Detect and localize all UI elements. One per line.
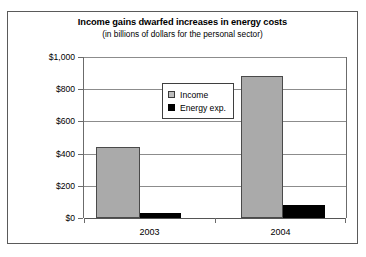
- y-axis-label-200: $200: [56, 181, 75, 191]
- page-title: Income gains dwarfed increases in energy…: [8, 16, 357, 28]
- chart-legend: Income Energy exp.: [162, 83, 234, 119]
- chart-figure: Income gains dwarfed increases in energy…: [7, 11, 358, 244]
- legend-swatch-energy: [168, 104, 175, 111]
- x-axis-label-2004: 2004: [270, 227, 290, 237]
- y-tick-200: [78, 186, 83, 187]
- gridline-600: [84, 121, 346, 122]
- y-axis-label-600: $600: [56, 116, 75, 126]
- x-tick-category-divider: [215, 218, 216, 223]
- bar-energy-2004: [283, 205, 325, 218]
- legend-label-energy: Energy exp.: [180, 103, 226, 113]
- x-tick-right-edge: [345, 218, 346, 223]
- y-tick-600: [78, 121, 83, 122]
- y-tick-1000: [78, 57, 83, 58]
- legend-swatch-income: [168, 91, 175, 98]
- y-axis-label-0: $0: [65, 213, 75, 223]
- y-tick-0: [78, 218, 83, 219]
- x-tick-left-edge: [84, 218, 85, 223]
- y-tick-400: [78, 154, 83, 155]
- y-tick-800: [78, 89, 83, 90]
- plot-area: $1,000 $800 $600 $400 $200 $0 2003 2004: [83, 57, 347, 218]
- y-axis-label-800: $800: [56, 84, 75, 94]
- legend-label-income: Income: [180, 90, 208, 100]
- y-axis-label-1000: $1,000: [49, 52, 75, 62]
- legend-item-income: Income: [168, 88, 226, 101]
- bar-income-2004: [241, 76, 283, 218]
- legend-item-energy: Energy exp.: [168, 101, 226, 114]
- x-axis-label-2003: 2003: [139, 227, 159, 237]
- chart-subtitle: (in billions of dollars for the personal…: [8, 28, 357, 40]
- gridline-1000: [84, 57, 346, 58]
- title-block: Income gains dwarfed increases in energy…: [8, 16, 357, 40]
- bar-energy-2003: [140, 213, 181, 218]
- bar-income-2003: [96, 147, 140, 218]
- y-axis-label-400: $400: [56, 149, 75, 159]
